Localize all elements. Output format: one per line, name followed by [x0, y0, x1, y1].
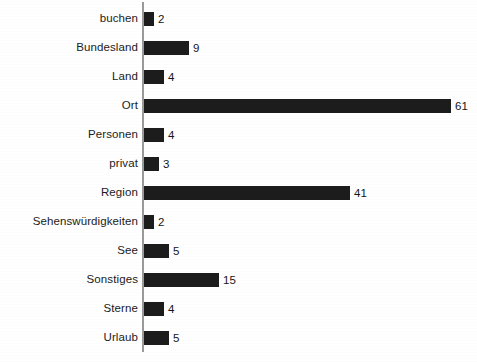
- category-label: Sonstiges: [0, 265, 138, 294]
- bar-row: See5: [0, 236, 477, 265]
- category-label: Region: [0, 178, 138, 207]
- bar-and-value: 3: [144, 149, 169, 178]
- category-label: Ort: [0, 91, 138, 120]
- bar-and-value: 4: [144, 294, 174, 323]
- bar-row: Sterne4: [0, 294, 477, 323]
- bar-and-value: 2: [144, 207, 164, 236]
- bar-value-label: 2: [158, 12, 164, 26]
- bar-row: Sonstiges15: [0, 265, 477, 294]
- bar-value-label: 4: [168, 128, 174, 142]
- bar-and-value: 5: [144, 323, 179, 352]
- bar-value-label: 15: [223, 273, 236, 287]
- bar: [144, 157, 159, 171]
- bar-row: Personen4: [0, 120, 477, 149]
- bar: [144, 186, 350, 200]
- bar-and-value: 61: [144, 91, 468, 120]
- bar: [144, 302, 164, 316]
- bar-and-value: 5: [144, 236, 179, 265]
- bar: [144, 244, 169, 258]
- category-label: See: [0, 236, 138, 265]
- category-label: buchen: [0, 4, 138, 33]
- bar-row: Urlaub5: [0, 323, 477, 352]
- category-label: privat: [0, 149, 138, 178]
- bar: [144, 128, 164, 142]
- bar-row: buchen2: [0, 4, 477, 33]
- bar: [144, 215, 154, 229]
- bar-row: Land4: [0, 62, 477, 91]
- bar-and-value: 4: [144, 62, 174, 91]
- category-label: Sterne: [0, 294, 138, 323]
- bar-row: Bundesland9: [0, 33, 477, 62]
- bar-value-label: 41: [354, 186, 367, 200]
- bar-row: Region41: [0, 178, 477, 207]
- bar-and-value: 41: [144, 178, 367, 207]
- category-label: Bundesland: [0, 33, 138, 62]
- bar-row: Sehenswürdigkeiten2: [0, 207, 477, 236]
- bar-and-value: 9: [144, 33, 199, 62]
- bar-value-label: 61: [455, 99, 468, 113]
- category-label: Sehenswürdigkeiten: [0, 207, 138, 236]
- bar-value-label: 4: [168, 70, 174, 84]
- bar-value-label: 4: [168, 302, 174, 316]
- bar-row: Ort61: [0, 91, 477, 120]
- bar-and-value: 15: [144, 265, 236, 294]
- bar-and-value: 2: [144, 4, 164, 33]
- bar-value-label: 2: [158, 215, 164, 229]
- bar-and-value: 4: [144, 120, 174, 149]
- bar: [144, 12, 154, 26]
- category-label: Urlaub: [0, 323, 138, 352]
- bar-value-label: 5: [173, 331, 179, 345]
- bar: [144, 41, 189, 55]
- bar-value-label: 5: [173, 244, 179, 258]
- bar-value-label: 3: [163, 157, 169, 171]
- bar: [144, 99, 451, 113]
- category-label: Land: [0, 62, 138, 91]
- category-label: Personen: [0, 120, 138, 149]
- bar-chart: buchen2Bundesland9Land4Ort61Personen4pri…: [0, 0, 477, 362]
- bar: [144, 70, 164, 84]
- bar: [144, 331, 169, 345]
- bar: [144, 273, 219, 287]
- bar-row: privat3: [0, 149, 477, 178]
- bar-value-label: 9: [193, 41, 199, 55]
